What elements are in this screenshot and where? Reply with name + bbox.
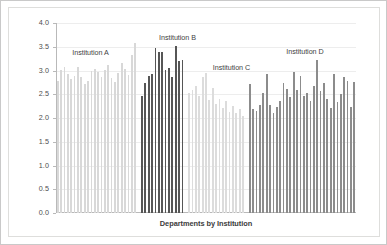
bar [232, 106, 234, 213]
bar [165, 70, 167, 213]
bar [353, 82, 355, 213]
group-label: Institution A [72, 48, 109, 57]
bar [249, 84, 251, 213]
chart-outer-frame: Mean Instructor-Student Interaction (PIP… [0, 0, 387, 245]
bar [229, 112, 231, 213]
bar [202, 77, 204, 213]
bar [273, 113, 275, 213]
bar [208, 100, 210, 213]
bar [316, 60, 318, 213]
bar [323, 83, 325, 213]
bar [198, 96, 200, 213]
bar [178, 61, 180, 213]
bar [192, 90, 194, 214]
bar [347, 81, 349, 213]
y-axis-tick-label: 1.0 [9, 162, 49, 169]
group-label: Institution B [159, 33, 196, 42]
bar [266, 74, 268, 213]
bar [310, 101, 312, 213]
bar [252, 109, 254, 213]
y-axis-tick-label: 0.5 [9, 185, 49, 192]
bar [239, 109, 241, 213]
bar [296, 90, 298, 213]
bar [64, 67, 66, 213]
bar [303, 96, 305, 213]
bar [293, 72, 295, 213]
bar [128, 75, 130, 213]
bar [195, 86, 197, 213]
bar [320, 91, 322, 213]
bar [350, 107, 352, 213]
bar [77, 67, 79, 213]
y-axis-tick-label: 2.5 [9, 90, 49, 97]
y-axis-tick-label: 3.5 [9, 43, 49, 50]
y-axis-tick-label: 2.0 [9, 114, 49, 121]
bar [333, 74, 335, 213]
bar [276, 107, 278, 213]
bar [235, 113, 237, 213]
bar [114, 82, 116, 213]
bar [141, 96, 143, 213]
bar [70, 79, 72, 213]
bar [151, 74, 153, 213]
bar [337, 102, 339, 213]
bar [242, 116, 244, 213]
bar [171, 77, 173, 213]
bar [300, 76, 302, 213]
y-axis-tick-label: 1.5 [9, 138, 49, 145]
bar [188, 93, 190, 213]
bar [87, 81, 89, 213]
bar [330, 108, 332, 213]
bar [161, 52, 163, 213]
bar [279, 101, 281, 213]
bar [57, 81, 59, 213]
bar [131, 55, 133, 213]
y-axis-title: Mean Instructor-Student Interaction (PIP… [0, 1, 3, 191]
bar [313, 86, 315, 213]
bar [91, 71, 93, 213]
x-axis-title: Departments by Institution [56, 219, 356, 228]
bar [80, 77, 82, 213]
bar [168, 68, 170, 213]
bar [107, 65, 109, 213]
bar [134, 43, 136, 213]
bar [104, 70, 106, 213]
bar [175, 46, 177, 213]
bar [205, 73, 207, 213]
bar [343, 77, 345, 213]
bar [256, 111, 258, 213]
bar [97, 72, 99, 213]
bar [262, 93, 264, 213]
bar [326, 99, 328, 213]
bar [225, 101, 227, 213]
gridline [56, 23, 356, 24]
bar [144, 83, 146, 213]
bar [111, 78, 113, 213]
bar [215, 104, 217, 213]
bar [259, 105, 261, 213]
bar [306, 93, 308, 213]
gridline [56, 71, 356, 72]
y-axis-tick-label: 3.0 [9, 67, 49, 74]
bar [94, 69, 96, 213]
bar [101, 77, 103, 213]
bar [269, 105, 271, 213]
bar [117, 73, 119, 213]
y-axis-tick-label: 0.0 [9, 209, 49, 216]
bar [219, 99, 221, 213]
bar [67, 74, 69, 213]
bar [158, 52, 160, 214]
bar [121, 63, 123, 213]
bar [283, 83, 285, 213]
bar [212, 88, 214, 213]
y-axis-tick-label: 4.0 [9, 19, 49, 26]
bar [222, 108, 224, 213]
bar [148, 76, 150, 213]
bar [286, 89, 288, 213]
bar [155, 48, 157, 213]
bar [289, 97, 291, 213]
group-label: Institution D [286, 47, 323, 56]
bar [74, 76, 76, 213]
bar [182, 60, 184, 213]
bar [340, 94, 342, 213]
